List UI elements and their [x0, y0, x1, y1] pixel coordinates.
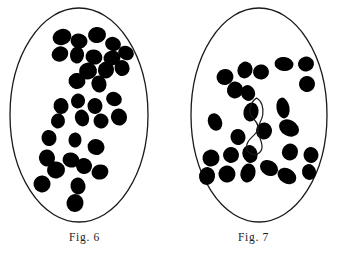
figure-6-panel: Fig. 6	[0, 0, 169, 256]
figure-7-drawing	[169, 0, 338, 231]
figure-6-drawing	[0, 0, 169, 231]
figure-7-caption: Fig. 7	[169, 231, 338, 243]
figure-6-caption: Fig. 6	[0, 231, 169, 243]
figure-7-panel: Fig. 7	[169, 0, 338, 256]
cytology-plate: Fig. 6 Fig. 7	[0, 0, 338, 256]
